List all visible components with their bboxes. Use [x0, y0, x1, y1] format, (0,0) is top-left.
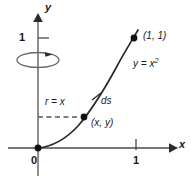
x-axis-label: x — [179, 139, 185, 150]
generic-point-dot — [81, 114, 88, 121]
figure-canvas: y x 1 1 0 (1, 1) y = x2 r = x ds (x, y) — [0, 0, 191, 180]
origin-point-dot — [35, 145, 42, 152]
endpoint-label: (1, 1) — [143, 31, 166, 41]
endpoint-point-dot — [131, 35, 138, 42]
x-axis-tick-label-1: 1 — [133, 155, 139, 166]
curve-equation-label: y = x2 — [133, 57, 158, 69]
arc-element-label: ds — [101, 96, 112, 106]
curve-equation-base: y = x — [133, 58, 154, 69]
y-axis-label: y — [45, 2, 51, 13]
x-axis-arrowhead — [169, 143, 178, 153]
y-axis-tick-label-1: 1 — [19, 32, 25, 43]
figure-graphics — [0, 0, 191, 180]
radius-label: r = x — [45, 97, 65, 107]
generic-point-label: (x, y) — [91, 118, 113, 128]
curve-equation-exponent: 2 — [154, 57, 158, 64]
parabola-curve — [38, 30, 138, 148]
origin-label: 0 — [31, 155, 37, 166]
y-axis-arrowhead — [33, 13, 43, 22]
